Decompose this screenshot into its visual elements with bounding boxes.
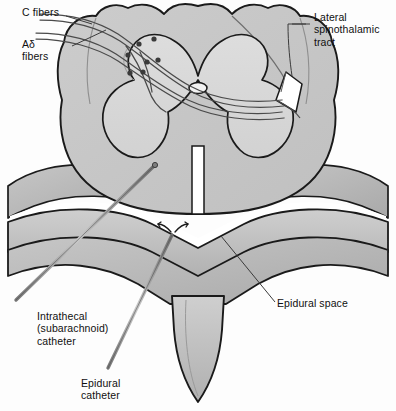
label-lateral-spinothalamic-tract: Lateral spinothalamic tract <box>314 11 380 48</box>
label-c-fibers: C fibers <box>22 6 59 18</box>
label-epidural-catheter: Epidural catheter <box>81 377 120 402</box>
anterior-fissure <box>192 146 204 214</box>
label-intrathecal-catheter: Intrathecal (subarachnoid) catheter <box>37 310 108 347</box>
spinous-process <box>172 296 224 402</box>
label-epidural-space: Epidural space <box>277 297 348 309</box>
illustration-canvas: C fibers Aδ fibers Lateral spinothalamic… <box>0 0 396 411</box>
label-adelta-fibers: Aδ fibers <box>22 38 48 63</box>
spinal-cord-diagram <box>0 0 396 411</box>
